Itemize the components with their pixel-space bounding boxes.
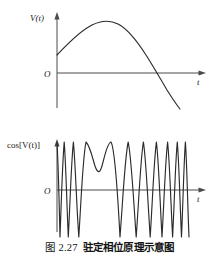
top-y-axis-label: V(t) — [30, 13, 44, 23]
bottom-panel — [54, 139, 206, 237]
top-y-axis-arrowhead — [54, 12, 59, 20]
bottom-y-axis-label: cos[V(t)] — [7, 140, 40, 150]
top-panel — [54, 12, 206, 109]
bottom-t-axis-arrowhead — [199, 187, 207, 192]
figure-caption: 图 2.27驻定相位原理示意图 — [0, 239, 220, 254]
figure-plot-area: V(t) O t cos[V(t)] O t — [0, 0, 220, 258]
top-t-axis-label: t — [197, 77, 200, 87]
top-curve-v-of-t — [57, 21, 180, 109]
top-t-axis-arrowhead — [199, 70, 207, 75]
figure-stationary-phase: V(t) O t cos[V(t)] O t 图 2.27驻定相位原理示意图 — [0, 0, 220, 258]
figure-caption-number: 图 2.27 — [45, 242, 77, 253]
bottom-origin-label: O — [44, 186, 51, 196]
figure-caption-text: 驻定相位原理示意图 — [83, 241, 175, 253]
bottom-t-axis-label: t — [197, 194, 200, 204]
top-origin-label: O — [44, 69, 51, 79]
